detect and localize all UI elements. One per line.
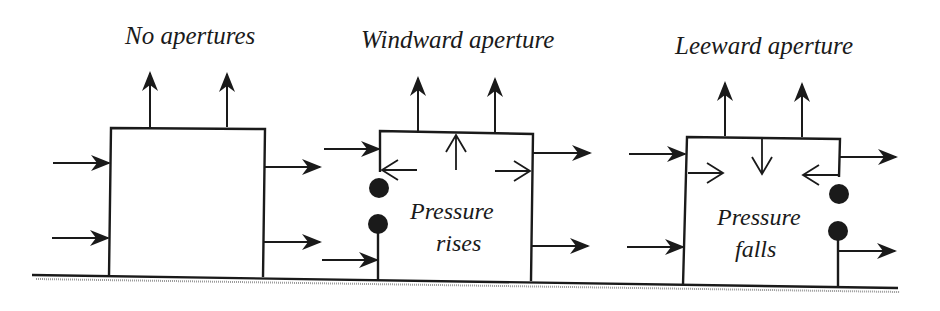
ground-line xyxy=(32,275,900,292)
panel-title: No apertures xyxy=(124,22,255,49)
aperture-opening xyxy=(369,178,389,198)
pressure-label-line1: Pressure xyxy=(409,198,494,224)
internal-pressure-arrows xyxy=(382,135,530,181)
arrow-left-open-icon xyxy=(803,165,838,185)
pressure-label-line2: rises xyxy=(436,230,481,256)
arrow-left-open-icon xyxy=(382,160,417,180)
external-wind-arrows xyxy=(52,73,320,242)
internal-pressure-arrows xyxy=(688,139,838,185)
building-outline xyxy=(109,128,265,277)
panel-no-apertures: No apertures xyxy=(52,22,320,277)
panel-title: Leeward aperture xyxy=(674,32,853,59)
arrow-up-open-icon xyxy=(446,135,466,170)
arrow-right-open-icon xyxy=(688,163,723,183)
aperture-opening xyxy=(829,184,849,204)
aperture-opening xyxy=(828,221,848,241)
pressure-label-line2: falls xyxy=(735,236,776,262)
arrow-down-open-icon xyxy=(752,139,772,174)
aperture-opening xyxy=(368,214,388,234)
panel-title: Windward aperture xyxy=(361,26,554,53)
panel-leeward-aperture: Leeward aperture Pressure falls xyxy=(627,32,896,287)
arrow-right-open-icon xyxy=(495,161,530,181)
panel-windward-aperture: Windward aperture Pressure rises xyxy=(322,26,590,281)
pressure-label-line1: Pressure xyxy=(716,204,801,230)
ventilation-pressure-diagram: No apertures Windward aperture xyxy=(0,0,940,311)
